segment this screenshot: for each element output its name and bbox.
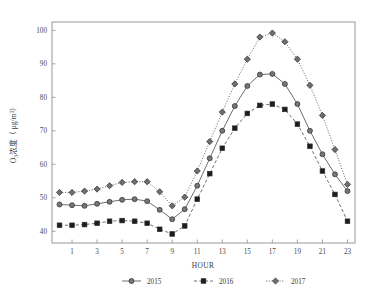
- x-tick-label: 9: [170, 248, 174, 256]
- series-2017: [56, 30, 350, 209]
- data-point-2016-h10: [182, 224, 187, 229]
- data-point-2016-h19: [295, 122, 300, 127]
- y-axis-label-close: ）: [9, 103, 18, 111]
- data-point-2016-h2: [82, 222, 87, 227]
- data-point-2017-h21: [319, 112, 325, 118]
- data-point-2016-h7: [145, 221, 150, 226]
- data-point-2016-h20: [308, 144, 313, 149]
- data-point-2017-h22: [332, 146, 338, 152]
- y-tick-label: 90: [40, 60, 48, 68]
- x-tick-label: 21: [319, 248, 327, 256]
- x-tick-label: 23: [344, 248, 352, 256]
- data-point-2017-h6: [132, 179, 138, 185]
- data-point-2016-h15: [245, 111, 250, 116]
- x-tick-label: 7: [145, 248, 149, 256]
- data-point-2015-h4: [107, 199, 112, 204]
- series-2015: [57, 71, 350, 221]
- legend-label-2017: 2017: [291, 278, 306, 286]
- legend-item-2017[interactable]: 2017: [266, 278, 306, 286]
- data-point-2015-h20: [307, 128, 312, 133]
- data-point-2016-h22: [333, 192, 338, 197]
- data-point-2017-h16: [257, 34, 263, 40]
- data-point-2015-h16: [257, 72, 262, 77]
- y-tick-label: 80: [40, 94, 48, 102]
- data-point-2015-h11: [195, 183, 200, 188]
- data-point-2015-h0: [57, 202, 62, 207]
- y-tick-label: 60: [40, 161, 48, 169]
- data-point-2017-h8: [157, 189, 163, 195]
- data-point-2015-h9: [170, 217, 175, 222]
- data-point-2015-h15: [245, 83, 250, 88]
- x-tick-label: 19: [294, 248, 302, 256]
- x-tick-label: 3: [95, 248, 99, 256]
- legend-marker-2016: [201, 279, 206, 284]
- data-point-2016-h9: [170, 232, 175, 237]
- data-point-2016-h16: [258, 103, 263, 108]
- data-point-2016-h1: [70, 223, 75, 228]
- y-tick-label: 100: [36, 27, 47, 35]
- data-point-2015-h14: [232, 104, 237, 109]
- data-point-2015-h18: [282, 81, 287, 86]
- x-axis-title: HOUR: [192, 261, 215, 270]
- data-point-2016-h23: [345, 219, 350, 224]
- data-point-2015-h1: [70, 203, 75, 208]
- x-tick-label: 11: [194, 248, 201, 256]
- x-tick-label: 15: [244, 248, 252, 256]
- data-point-2015-h13: [220, 128, 225, 133]
- legend-label-2016: 2016: [219, 278, 234, 286]
- data-point-2016-h5: [120, 218, 125, 223]
- data-point-2015-h12: [207, 156, 212, 161]
- data-point-2015-h2: [82, 203, 87, 208]
- data-point-2017-h23: [344, 181, 350, 187]
- data-point-2017-h15: [244, 56, 250, 62]
- data-point-2016-h8: [157, 227, 162, 232]
- x-tick-label: 13: [219, 248, 227, 256]
- series-layer: [56, 30, 350, 236]
- data-point-2017-h4: [106, 183, 112, 189]
- svg-text:O3浓度（ μg/m3）: O3浓度（ μg/m3）: [8, 103, 19, 164]
- data-point-2017-h13: [219, 109, 225, 115]
- data-point-2016-h21: [320, 169, 325, 174]
- data-point-2015-h6: [132, 197, 137, 202]
- data-point-2016-h13: [220, 146, 225, 151]
- data-point-2017-h10: [182, 194, 188, 200]
- data-point-2016-h6: [132, 219, 137, 224]
- data-point-2017-h11: [194, 168, 200, 174]
- chart-legend: 201520162017: [122, 278, 306, 286]
- data-point-2017-h3: [94, 186, 100, 192]
- data-point-2015-h23: [345, 189, 350, 194]
- data-point-2017-h12: [207, 138, 213, 144]
- data-point-2016-h14: [233, 126, 238, 131]
- x-axis-ticks: 1357911131517192123: [70, 240, 351, 257]
- legend-label-2015: 2015: [147, 278, 162, 286]
- data-point-2015-h8: [157, 207, 162, 212]
- y-axis-label-rest: 浓度（ μg/m: [8, 113, 18, 155]
- data-point-2017-h0: [56, 189, 62, 195]
- legend-marker-2015: [129, 279, 134, 284]
- data-point-2015-h19: [295, 102, 300, 107]
- legend-item-2015[interactable]: 2015: [122, 278, 162, 286]
- y-tick-label: 50: [40, 194, 48, 202]
- data-point-2015-h7: [145, 199, 150, 204]
- data-point-2015-h22: [332, 172, 337, 177]
- data-point-2017-h17: [269, 30, 275, 36]
- data-point-2017-h5: [119, 179, 125, 185]
- legend-item-2016[interactable]: 2016: [194, 278, 234, 286]
- chart-container: 405060708090100 1357911131517192123 O3浓度…: [0, 0, 387, 297]
- data-point-2015-h10: [182, 207, 187, 212]
- y-tick-label: 40: [40, 228, 48, 236]
- data-point-2015-h3: [95, 201, 100, 206]
- y-tick-label: 70: [40, 127, 48, 135]
- data-point-2016-h4: [107, 219, 112, 224]
- x-tick-label: 1: [70, 248, 74, 256]
- data-point-2016-h12: [207, 171, 212, 176]
- data-point-2015-h17: [270, 71, 275, 76]
- data-point-2017-h14: [232, 81, 238, 87]
- data-point-2016-h0: [57, 223, 62, 228]
- data-point-2017-h18: [282, 39, 288, 45]
- data-point-2017-h1: [69, 189, 75, 195]
- series-line-2015: [60, 74, 348, 219]
- data-point-2015-h21: [320, 152, 325, 157]
- x-tick-label: 5: [120, 248, 124, 256]
- x-tick-label: 17: [269, 248, 277, 256]
